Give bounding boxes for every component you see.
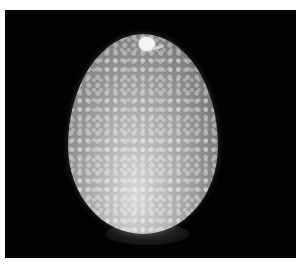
egg [68, 34, 218, 234]
